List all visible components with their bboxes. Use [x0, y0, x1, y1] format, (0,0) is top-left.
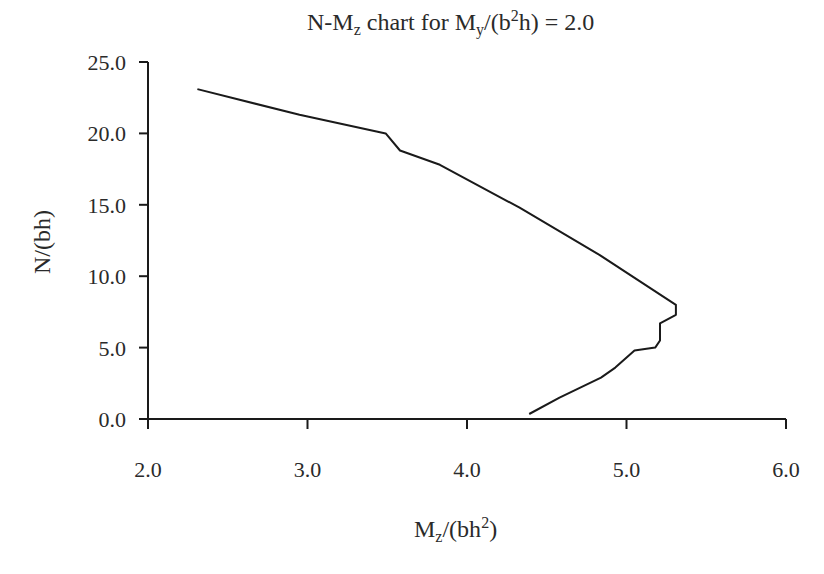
x-tick-label: 4.0: [453, 457, 481, 482]
chart-title: N-Mz chart for My/(b2h) = 2.0: [307, 7, 594, 39]
x-ticks: 2.03.04.05.06.0: [134, 419, 800, 482]
chart: N-Mz chart for My/(b2h) = 2.0 0.05.010.0…: [0, 0, 824, 574]
y-ticks: 0.05.010.015.020.025.0: [88, 50, 149, 432]
y-axis-label: N/(bh): [29, 210, 55, 274]
x-axis-label: Mz/(bh2): [414, 514, 497, 545]
x-tick-label: 6.0: [772, 457, 800, 482]
y-tick-label: 10.0: [88, 264, 127, 289]
y-tick-label: 15.0: [88, 193, 127, 218]
y-tick-label: 5.0: [99, 336, 127, 361]
y-tick-label: 20.0: [88, 121, 127, 146]
x-tick-label: 3.0: [294, 457, 322, 482]
y-tick-label: 0.0: [99, 407, 127, 432]
x-tick-label: 5.0: [613, 457, 641, 482]
x-tick-label: 2.0: [134, 457, 162, 482]
y-tick-label: 25.0: [88, 50, 127, 75]
data-line: [197, 89, 676, 414]
